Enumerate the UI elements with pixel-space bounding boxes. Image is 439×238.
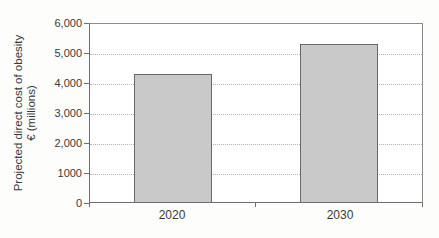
y-tick-label-6000: 6,000 (22, 17, 82, 29)
bar-2030 (300, 44, 378, 202)
y-tick-label-3000: 3,000 (22, 107, 82, 119)
plot-area (89, 23, 423, 203)
bar-2020 (134, 74, 212, 202)
y-tick-label-0: 0 (22, 197, 82, 209)
x-tick-mark (422, 203, 423, 207)
y-tick-label-2000: 2,000 (22, 137, 82, 149)
y-tick-label-5000: 5,000 (22, 47, 82, 59)
x-tick-mark (255, 203, 256, 207)
x-tick-mark (89, 203, 90, 207)
bar-chart-figure: Projected direct cost of obesity € (mill… (0, 0, 439, 238)
x-tick-label-2030: 2030 (300, 208, 380, 222)
y-tick-label-4000: 4,000 (22, 77, 82, 89)
x-tick-label-2020: 2020 (132, 208, 212, 222)
y-tick-label-1000: 1000 (22, 167, 82, 179)
